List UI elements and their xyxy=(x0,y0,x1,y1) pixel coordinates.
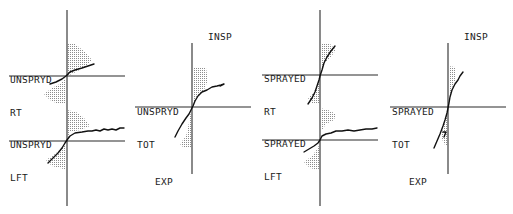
label-line-2: LFT xyxy=(264,171,306,182)
label-insp: INSP xyxy=(464,31,488,42)
label-unspryd-lft: UNSPRYD LFT xyxy=(10,117,52,194)
label-line-1: UNSPRYD xyxy=(10,74,52,85)
label-line-2: TOT xyxy=(137,139,179,150)
label-line-1: UNSPRYD xyxy=(137,106,179,117)
label-sprayed-tot: SPRAYED TOT xyxy=(392,84,434,161)
label-line-1: SPRAYED xyxy=(264,138,306,149)
lft-exp-shading xyxy=(304,140,320,170)
label-line-1: SPRAYED xyxy=(392,106,434,117)
label-exp: EXP xyxy=(409,176,427,187)
rt-exp-shading xyxy=(308,75,320,104)
label-line-2: LFT xyxy=(10,172,52,183)
label-line-1: UNSPRYD xyxy=(10,139,52,150)
label-exp: EXP xyxy=(155,176,173,187)
label-unspryd-tot: UNSPRYD TOT xyxy=(137,84,179,161)
label-line-2: TOT xyxy=(392,139,434,150)
label-insp: INSP xyxy=(208,31,232,42)
label-line-1: SPRAYED xyxy=(264,73,306,84)
label-sprayed-lft: SPRAYED LFT xyxy=(264,116,306,193)
figure-canvas xyxy=(0,0,513,214)
